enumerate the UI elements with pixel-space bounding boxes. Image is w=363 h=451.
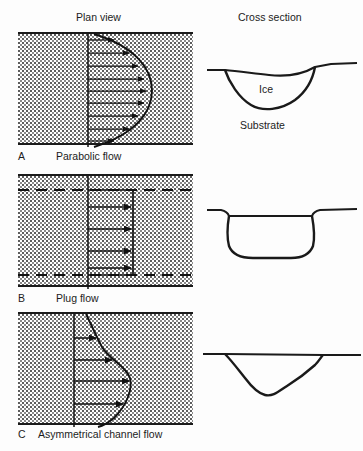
- velocity-profile-parabolic: [18, 34, 193, 147]
- column-header-plan-view: Plan view: [76, 11, 121, 23]
- profile-curve-b: [88, 190, 133, 275]
- arrow-group-b: [88, 207, 131, 268]
- ice-surface-line-b: [207, 209, 357, 216]
- profile-curve-c: [86, 314, 131, 427]
- panel-letter-b: B: [18, 292, 25, 304]
- label-substrate: Substrate: [240, 119, 285, 131]
- panel-title-c: Asymmetrical channel flow: [38, 428, 162, 440]
- panel-title-b: Plug flow: [56, 292, 99, 304]
- velocity-profile-asymmetrical: [18, 314, 193, 427]
- cross-section-panel-c: [203, 338, 353, 418]
- valley-profile-asymmetrical: [203, 338, 361, 418]
- valley-profile-parabolic: [207, 48, 357, 128]
- plan-view-panel-a: [18, 32, 193, 145]
- plan-view-panel-b: [18, 174, 193, 287]
- ice-surface-line-a: [207, 63, 357, 76]
- valley-profile-plug: [207, 196, 357, 276]
- panel-title-a: Parabolic flow: [56, 150, 121, 162]
- panel-letter-a: A: [18, 150, 25, 162]
- cross-section-panel-a: [207, 48, 357, 128]
- flow-figure: Plan view Cross section: [0, 0, 363, 451]
- substrate-bed-line-c: [225, 354, 323, 395]
- substrate-bed-line-b: [228, 216, 315, 258]
- label-ice: Ice: [259, 83, 273, 95]
- panel-letter-c: C: [18, 428, 26, 440]
- column-header-cross-section: Cross section: [238, 11, 302, 23]
- plan-view-panel-c: [18, 312, 193, 425]
- velocity-profile-plug: [18, 176, 193, 289]
- cross-section-panel-b: [207, 196, 357, 276]
- arrow-group-a: [88, 40, 146, 141]
